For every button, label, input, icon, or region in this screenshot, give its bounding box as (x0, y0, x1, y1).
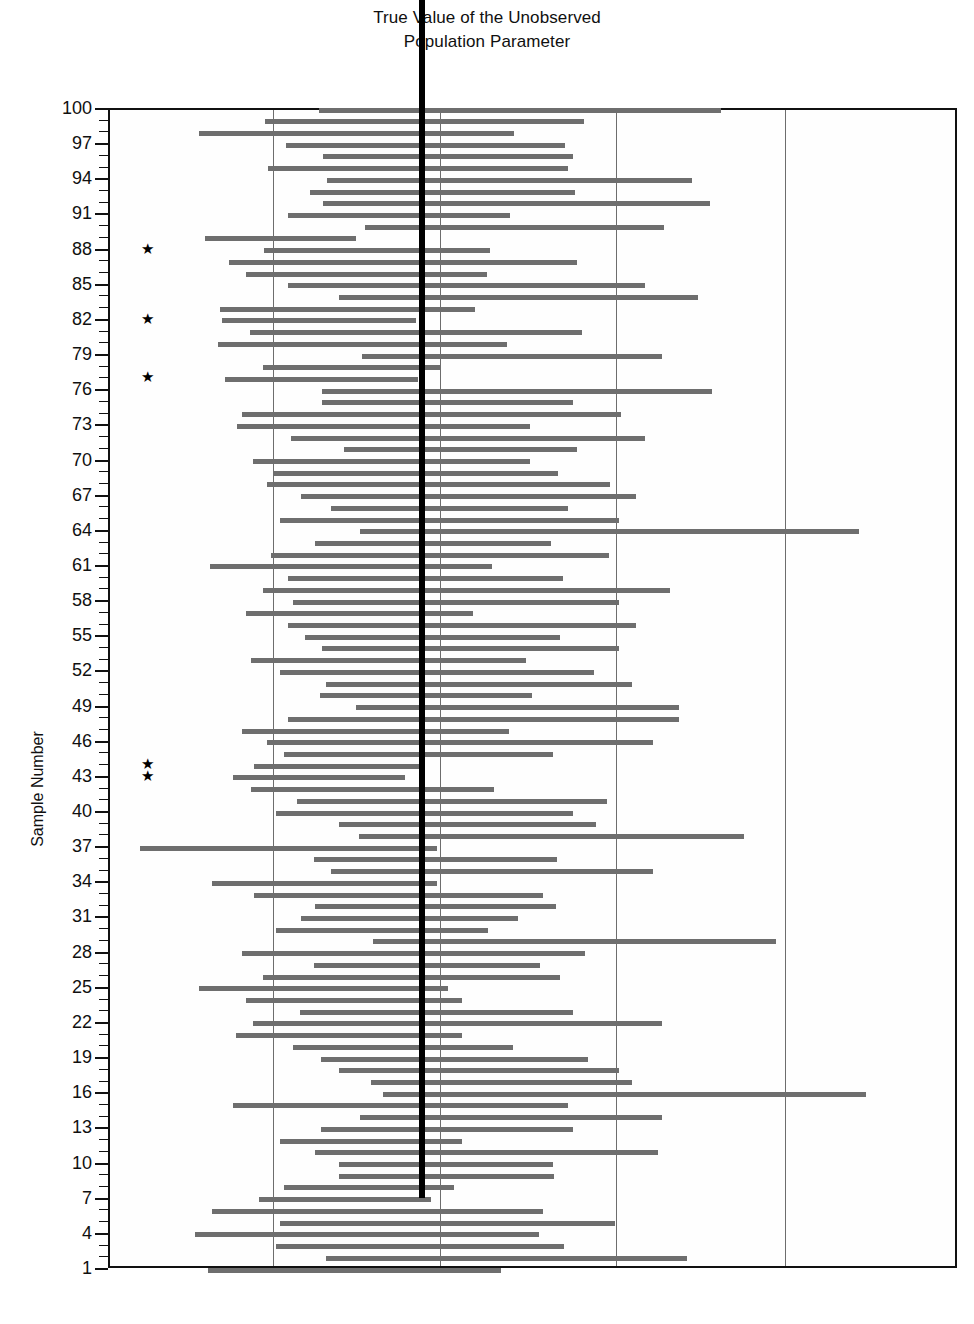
confidence-interval-bar (373, 939, 776, 944)
confidence-interval-bar (315, 541, 551, 546)
confidence-interval-bar (321, 1057, 588, 1062)
confidence-interval-bar (195, 1232, 539, 1237)
confidence-interval-bar (301, 916, 517, 921)
confidence-interval-bar (288, 213, 510, 218)
y-tick-61 (95, 565, 108, 567)
y-tick-62 (99, 553, 108, 554)
y-tick-69 (99, 471, 108, 472)
y-tick-30 (99, 928, 108, 929)
confidence-interval-bar (322, 389, 712, 394)
y-tick-label-76: 76 (32, 380, 92, 398)
y-tick-label-49: 49 (32, 697, 92, 715)
confidence-interval-bar (331, 506, 569, 511)
confidence-interval-bar (237, 424, 530, 429)
confidence-interval-bar (242, 951, 586, 956)
y-tick-49 (95, 706, 108, 708)
confidence-interval-bar (288, 576, 562, 581)
y-tick-72 (99, 436, 108, 437)
y-tick-36 (99, 858, 108, 859)
y-tick-91 (95, 213, 108, 215)
y-tick-39 (99, 823, 108, 824)
y-tick-label-46: 46 (32, 732, 92, 750)
y-tick-32 (99, 905, 108, 906)
y-tick-label-58: 58 (32, 591, 92, 609)
y-tick-48 (99, 717, 108, 718)
y-tick-label-88: 88 (32, 240, 92, 258)
y-tick-45 (99, 752, 108, 753)
confidence-interval-bar (263, 588, 671, 593)
confidence-interval-bar (301, 494, 636, 499)
confidence-interval-bar (253, 459, 531, 464)
y-tick-93 (99, 190, 108, 191)
confidence-interval-bar (288, 283, 645, 288)
y-tick-label-19: 19 (32, 1048, 92, 1066)
y-tick-label-94: 94 (32, 169, 92, 187)
confidence-interval-bar (246, 998, 462, 1003)
y-tick-54 (99, 647, 108, 648)
y-tick-43 (95, 776, 108, 778)
confidence-interval-bar (274, 471, 558, 476)
confidence-interval-bar (225, 377, 419, 382)
y-tick-70 (95, 460, 108, 462)
confidence-interval-bar (140, 846, 437, 851)
y-tick-label-4: 4 (32, 1224, 92, 1242)
confidence-interval-bar (208, 1268, 501, 1273)
y-tick-78 (99, 366, 108, 367)
y-tick-label-85: 85 (32, 275, 92, 293)
y-tick-4 (95, 1233, 108, 1235)
y-axis-ticks: 1471013161922252831343740434649525558616… (0, 0, 108, 1324)
confidence-interval-bar (212, 881, 437, 886)
y-tick-29 (99, 940, 108, 941)
confidence-interval-bar (218, 342, 508, 347)
y-tick-22 (95, 1022, 108, 1024)
confidence-interval-bar (251, 658, 526, 663)
y-tick-75 (99, 401, 108, 402)
y-tick-87 (99, 260, 108, 261)
confidence-interval-bar (267, 482, 610, 487)
confidence-interval-bar (322, 646, 619, 651)
confidence-interval-bar (314, 963, 541, 968)
y-tick-99 (99, 120, 108, 121)
y-tick-58 (95, 600, 108, 602)
chart-title-line-1: True Value of the Unobserved (0, 6, 974, 30)
confidence-interval-bar (276, 928, 487, 933)
confidence-interval-bar (365, 225, 664, 230)
y-tick-68 (99, 483, 108, 484)
y-tick-label-64: 64 (32, 521, 92, 539)
confidence-interval-bar (305, 635, 560, 640)
y-tick-27 (99, 963, 108, 964)
y-tick-96 (99, 155, 108, 156)
y-tick-label-40: 40 (32, 802, 92, 820)
plot-area (108, 108, 957, 1268)
confidence-interval-bar (339, 1174, 554, 1179)
y-tick-24 (99, 999, 108, 1000)
confidence-interval-bar (250, 330, 582, 335)
y-tick-55 (95, 635, 108, 637)
y-tick-35 (99, 870, 108, 871)
y-tick-47 (99, 729, 108, 730)
confidence-interval-bar (263, 365, 441, 370)
confidence-interval-bar (280, 1139, 463, 1144)
confidence-interval-bar (362, 354, 662, 359)
confidence-interval-bar (300, 1010, 573, 1015)
confidence-interval-bar (331, 869, 654, 874)
y-tick-6 (99, 1209, 108, 1210)
y-tick-94 (95, 178, 108, 180)
confidence-interval-bar (280, 1221, 615, 1226)
y-tick-33 (99, 893, 108, 894)
confidence-interval-bar (339, 1068, 619, 1073)
missed-interval-star-icon: ★ (141, 314, 154, 324)
confidence-interval-bar (314, 857, 557, 862)
chart-title-line-2: Population Parameter (0, 30, 974, 54)
y-tick-label-79: 79 (32, 345, 92, 363)
confidence-interval-bar (259, 1197, 431, 1202)
confidence-interval-bar (359, 834, 744, 839)
confidence-interval-bar (339, 1162, 553, 1167)
confidence-interval-bar (199, 131, 514, 136)
y-tick-11 (99, 1151, 108, 1152)
y-tick-56 (99, 624, 108, 625)
y-tick-label-13: 13 (32, 1118, 92, 1136)
y-tick-89 (99, 237, 108, 238)
confidence-interval-bar (233, 775, 405, 780)
y-tick-label-25: 25 (32, 978, 92, 996)
